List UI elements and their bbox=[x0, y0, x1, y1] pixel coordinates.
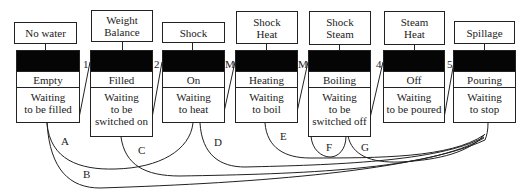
state-header-bar bbox=[308, 50, 371, 72]
state-heating: Heating bbox=[235, 72, 298, 88]
state-boiling: Boiling bbox=[308, 72, 371, 88]
arc-label-f: F bbox=[326, 142, 332, 153]
event-stem bbox=[122, 42, 123, 50]
state-pouring: Pouring bbox=[453, 72, 516, 88]
transition-line-1 bbox=[79, 62, 90, 118]
transition-label-5: 4 bbox=[376, 59, 382, 70]
transition-label-3: M bbox=[225, 59, 235, 70]
arc-c bbox=[121, 137, 484, 176]
event-box-shock-steam: Shock Steam bbox=[309, 11, 371, 45]
event-box-spillage: Spillage bbox=[454, 21, 515, 44]
event-box-weight-balance: Weight Balance bbox=[91, 10, 153, 42]
state-header-bar bbox=[16, 50, 80, 72]
state-header-bar bbox=[453, 50, 516, 72]
arc-label-b: B bbox=[83, 169, 90, 180]
waiting-box-heating: Waiting to boil bbox=[235, 88, 298, 123]
event-box-shock: Shock bbox=[162, 22, 225, 43]
waiting-box-off: Waiting to be poured bbox=[383, 88, 445, 123]
state-header-bar bbox=[162, 50, 225, 72]
transition-label-1: 1 bbox=[83, 59, 89, 70]
waiting-box-filled: Waiting to be switched on bbox=[90, 88, 153, 137]
state-header-bar bbox=[90, 50, 153, 72]
event-box-no-water: No water bbox=[14, 22, 77, 44]
event-box-shock-heat: Shock Heat bbox=[236, 11, 298, 44]
arc-label-c: C bbox=[138, 145, 145, 156]
arc-label-d: D bbox=[214, 137, 222, 148]
arc-label-e: E bbox=[280, 131, 287, 142]
waiting-box-boiling: Waiting to be switched off bbox=[308, 88, 371, 137]
state-header-bar bbox=[383, 50, 445, 72]
waiting-box-on: Waiting to heat bbox=[162, 88, 225, 123]
arc-e bbox=[265, 123, 484, 158]
state-empty: Empty bbox=[16, 72, 80, 88]
arc-label-a: A bbox=[61, 136, 69, 147]
state-off: Off bbox=[383, 72, 445, 88]
transition-label-4: M bbox=[298, 59, 308, 70]
transition-label-6: 5 bbox=[447, 59, 453, 70]
state-on: On bbox=[162, 72, 225, 88]
event-box-steam-heat: Steam Heat bbox=[384, 11, 445, 45]
state-filled: Filled bbox=[90, 72, 153, 88]
waiting-box-pouring: Waiting to stop bbox=[453, 88, 516, 123]
transition-label-2: 2 bbox=[154, 59, 160, 70]
transition-line-2 bbox=[152, 62, 162, 118]
transition-line-5 bbox=[370, 62, 383, 118]
state-header-bar bbox=[235, 50, 298, 72]
arc-label-g: G bbox=[361, 142, 369, 153]
event-stem bbox=[192, 43, 193, 50]
waiting-box-empty: Waiting to be filled bbox=[16, 88, 80, 123]
